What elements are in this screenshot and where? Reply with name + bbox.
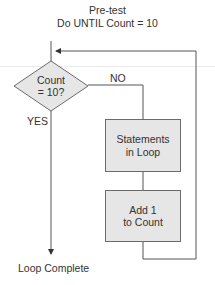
loop-complete-label: Loop Complete [18, 262, 89, 274]
no-label: NO [110, 72, 126, 84]
process-box-2-line2: to Count [123, 216, 163, 229]
process-box-2-line1: Add 1 [123, 204, 163, 217]
process-box-increment: Add 1 to Count [105, 190, 181, 242]
process-box-1-line1: Statements [116, 133, 169, 146]
no-branch-line [88, 85, 143, 119]
process-box-statements: Statements in Loop [105, 119, 181, 172]
decision-line2: = 10? [26, 86, 76, 98]
decision-line1: Count [26, 74, 76, 86]
yes-label: YES [27, 115, 48, 127]
process-box-1-line2: in Loop [116, 146, 169, 159]
decision-text: Count = 10? [26, 74, 76, 98]
